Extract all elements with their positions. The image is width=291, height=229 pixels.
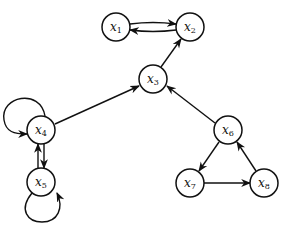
node-x2: x2 xyxy=(176,13,204,41)
nodes: x1 x2 x3 x4 x5 x6 x7 x8 xyxy=(27,13,278,197)
node-x1: x1 xyxy=(102,13,130,41)
node-x5: x5 xyxy=(27,168,55,196)
node-x7: x7 xyxy=(176,169,204,197)
edge-x6-x3 xyxy=(167,86,215,123)
node-x4: x4 xyxy=(27,116,55,144)
edge-x5-self-loop xyxy=(25,193,60,222)
edge-x2-x1 xyxy=(130,30,176,32)
node-x3: x3 xyxy=(139,65,167,93)
graph-canvas: x1 x2 x3 x4 x5 x6 x7 x8 xyxy=(0,0,291,229)
node-x8: x8 xyxy=(250,169,278,197)
edge-x1-x2 xyxy=(130,23,176,25)
edge-x8-x6 xyxy=(237,142,256,171)
edge-x6-x7 xyxy=(199,142,219,171)
edge-x3-x2 xyxy=(161,39,181,67)
edge-x4-x3 xyxy=(55,86,139,124)
node-x6: x6 xyxy=(214,116,242,144)
